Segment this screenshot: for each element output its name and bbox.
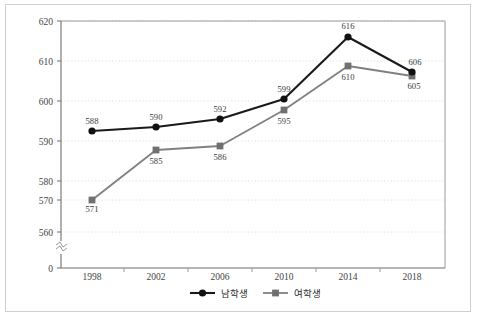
- y-tick-label-570: 570: [39, 196, 54, 206]
- x-tick-labels: 1998 2002 2006 2010 2014 2018: [83, 272, 422, 282]
- data-point-male-2018: [408, 68, 415, 75]
- value-labels-female: 571 585 586 595 610 605: [86, 72, 421, 214]
- data-point-female-2002: [153, 147, 160, 154]
- data-point-male-2010: [280, 95, 287, 102]
- data-point-female-2010: [281, 107, 288, 114]
- y-axis-break-icon: [56, 242, 67, 251]
- data-point-male-2006: [216, 115, 223, 122]
- legend-marker-male-circle-icon: [199, 289, 206, 296]
- value-label-female-2006: 586: [214, 152, 228, 162]
- value-labels-male: 588 590 592 599 616 606: [86, 21, 423, 126]
- y-tick-label-600: 600: [39, 97, 54, 107]
- legend-marker-female-square-icon: [272, 290, 279, 297]
- legend-label-male: 남학생: [221, 288, 248, 299]
- data-point-female-2014: [345, 63, 352, 70]
- data-point-male-2014: [344, 33, 351, 40]
- data-point-male-2002: [152, 123, 159, 130]
- value-label-male-2006: 592: [214, 104, 227, 114]
- chart-canvas: 620 610 600 590 580 570 560 0 1998 2002 …: [0, 0, 477, 319]
- y-tick-label-590: 590: [39, 137, 54, 147]
- legend-item-female[interactable]: 여학생: [263, 288, 321, 299]
- value-label-male-2010: 599: [278, 84, 291, 94]
- x-tick-label-2018: 2018: [403, 272, 422, 282]
- y-tick-label-610: 610: [39, 57, 54, 67]
- y-tick-label-580: 580: [39, 177, 54, 187]
- data-point-female-1998: [89, 197, 96, 204]
- series-line-female: [92, 66, 412, 200]
- x-tick-label-2014: 2014: [339, 272, 358, 282]
- x-tick-label-2010: 2010: [275, 272, 294, 282]
- legend-item-male[interactable]: 남학생: [190, 288, 248, 299]
- data-point-female-2006: [217, 143, 224, 150]
- value-label-female-1998: 571: [86, 204, 99, 214]
- chart-figure: 620 610 600 590 580 570 560 0 1998 2002 …: [0, 0, 477, 319]
- value-label-female-2018: 605: [408, 81, 421, 91]
- y-tick-label-560: 560: [39, 228, 54, 238]
- y-tick-label-0: 0: [48, 264, 53, 274]
- series-markers-female: [89, 63, 416, 204]
- value-label-male-2018: 606: [409, 57, 423, 67]
- data-point-male-1998: [88, 127, 95, 134]
- value-label-female-2002: 585: [150, 156, 163, 166]
- x-tick-label-1998: 1998: [83, 272, 102, 282]
- chart-legend: 남학생 여학생: [190, 288, 321, 299]
- x-tick-label-2006: 2006: [211, 272, 230, 282]
- value-label-female-2014: 610: [342, 72, 355, 82]
- value-label-female-2010: 595: [278, 116, 291, 126]
- series-markers-male: [88, 33, 415, 134]
- legend-label-female: 여학생: [294, 288, 321, 299]
- y-tick-label-620: 620: [39, 17, 54, 27]
- value-label-male-2002: 590: [150, 112, 163, 122]
- y-tick-labels: 620 610 600 590 580 570 560 0: [39, 17, 54, 274]
- value-label-male-2014: 616: [342, 21, 356, 31]
- y-tick-marks: [57, 21, 61, 268]
- series-line-male: [92, 37, 412, 131]
- x-tick-label-2002: 2002: [147, 272, 166, 282]
- value-label-male-1998: 588: [86, 116, 99, 126]
